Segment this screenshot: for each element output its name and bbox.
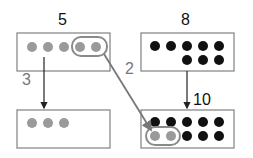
- label-arrow-left: 3: [22, 72, 31, 88]
- box-top-right: [141, 33, 234, 71]
- box-top-left: [17, 33, 110, 71]
- box-bottom-left: [17, 110, 110, 148]
- diagram-canvas: [0, 0, 253, 158]
- box-bottom-right: [141, 110, 234, 148]
- label-arrow-diagonal: 2: [125, 61, 134, 77]
- label-bottom-right: 10: [193, 92, 211, 108]
- label-top-left: 5: [58, 12, 67, 28]
- label-top-right: 8: [181, 12, 190, 28]
